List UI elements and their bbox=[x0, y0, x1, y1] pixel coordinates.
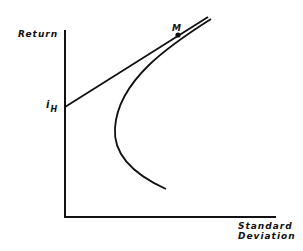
intercept-label: iH bbox=[46, 100, 56, 111]
x-axis-label-line2: Deviation bbox=[238, 231, 296, 241]
tangent-point-label: M bbox=[172, 23, 181, 33]
x-axis-label-line1: Standard bbox=[238, 221, 296, 231]
tangent-point-m bbox=[175, 32, 180, 37]
y-axis-label: Return bbox=[18, 29, 58, 39]
intercept-label-subscript: H bbox=[50, 105, 57, 114]
x-axis-label: Standard Deviation bbox=[238, 221, 296, 241]
intercept-label-main: i bbox=[46, 99, 49, 110]
tangent-line bbox=[65, 17, 208, 107]
